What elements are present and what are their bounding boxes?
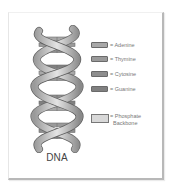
legend-item-cytosine: = Cytosine xyxy=(91,70,136,78)
legend-label: = Phosphate xyxy=(110,113,141,120)
guanine-swatch xyxy=(91,86,108,92)
thymine-swatch xyxy=(91,56,108,62)
legend-item-phosphate-backbone: = Phosphate Backbone xyxy=(110,113,141,127)
legend-item-guanine: = Guanine xyxy=(91,85,136,93)
dna-label: DNA xyxy=(37,152,77,163)
dna-diagram-card: DNA = Adenine = Thymine = Cytosine = Gua… xyxy=(8,12,164,180)
phosphate-backbone-swatch xyxy=(91,114,109,123)
dna-double-helix-illustration xyxy=(29,25,85,153)
legend-label: = Cytosine xyxy=(110,71,136,77)
adenine-swatch xyxy=(91,42,108,48)
legend-label: Backbone xyxy=(110,120,141,127)
cytosine-swatch xyxy=(91,71,108,77)
legend-label: = Thymine xyxy=(110,56,136,62)
legend-item-thymine: = Thymine xyxy=(91,55,136,63)
legend-item-adenine: = Adenine xyxy=(91,41,135,49)
legend-label: = Guanine xyxy=(110,86,136,92)
legend-label: = Adenine xyxy=(110,42,135,48)
